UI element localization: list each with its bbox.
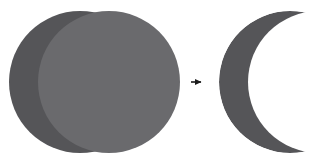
operands-group <box>9 11 180 153</box>
diagram-canvas: Boolean subtract of two overlapping circ… <box>0 0 315 166</box>
boolean-subtract-illustration <box>0 0 315 166</box>
right-circle[interactable] <box>38 11 180 153</box>
